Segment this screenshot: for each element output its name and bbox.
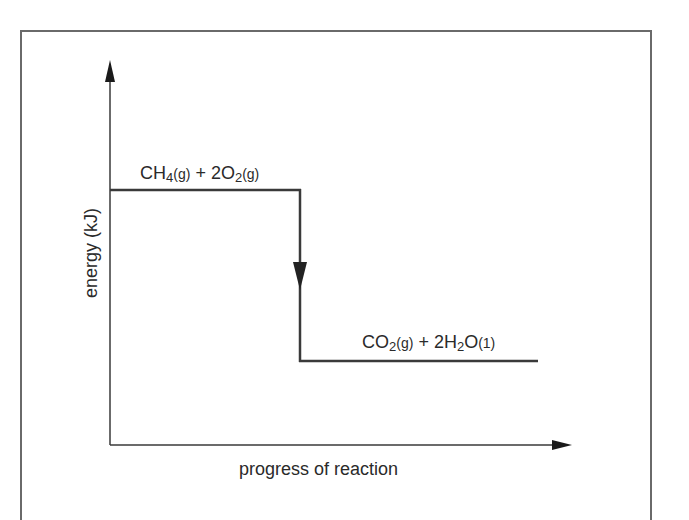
reactant-methane: CH: [140, 163, 166, 183]
plus-sign: +: [418, 332, 429, 352]
products-label: CO2(g) + 2H2O(1): [362, 333, 495, 351]
product-carbon-dioxide: CO: [362, 332, 389, 352]
product-water-o: O: [464, 332, 478, 352]
state-symbol: (1): [478, 335, 495, 351]
x-axis-label: progress of reaction: [239, 459, 398, 480]
state-symbol: (g): [396, 335, 413, 351]
state-symbol: (g): [242, 166, 259, 182]
reactants-label: CH4(g) + 2O2(g): [140, 164, 259, 182]
state-symbol: (g): [173, 166, 190, 182]
y-axis-label: energy (kJ): [81, 208, 102, 298]
subscript: 4: [166, 170, 173, 185]
coefficient: 2: [434, 332, 444, 352]
subscript: 2: [235, 170, 242, 185]
subscript: 2: [457, 339, 464, 354]
plus-sign: +: [195, 163, 206, 183]
reactant-oxygen: O: [221, 163, 235, 183]
y-axis-arrowhead-icon: [105, 60, 115, 82]
coefficient: 2: [211, 163, 221, 183]
energy-change-down-arrow-icon: [293, 262, 307, 290]
x-axis-arrowhead-icon: [552, 440, 572, 450]
subscript: 2: [389, 339, 396, 354]
product-water-h: H: [444, 332, 457, 352]
